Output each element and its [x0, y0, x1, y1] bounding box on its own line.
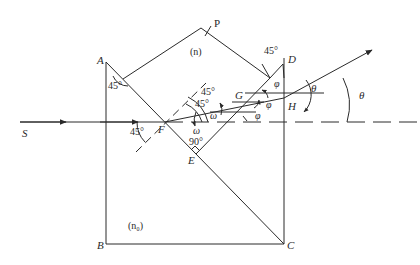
omega-1: ω	[193, 126, 200, 136]
label-D: D	[288, 54, 296, 65]
theta-2: θ	[359, 90, 364, 101]
label-S: S	[22, 128, 28, 139]
label-B: B	[97, 240, 104, 251]
angle-F-label: 45°	[130, 127, 144, 137]
label-A: A	[97, 55, 104, 66]
diagram-lines	[0, 0, 420, 265]
omega-2: ω	[210, 111, 217, 121]
optics-diagram: A B C D E F G H P S (n) (n₀) 45° 45° 90°…	[0, 0, 420, 265]
angle-E-label: 90°	[189, 137, 203, 147]
hypotenuse-AC	[106, 62, 284, 244]
label-C: C	[287, 240, 294, 251]
label-P: P	[214, 18, 220, 29]
theta-1: θ	[311, 83, 316, 94]
label-block-medium: (n₀)	[128, 221, 143, 231]
phi-1: φ	[274, 79, 280, 89]
label-F: F	[158, 124, 165, 135]
label-prism-medium: (n)	[190, 47, 202, 57]
label-E: E	[188, 155, 195, 166]
label-G: G	[235, 90, 243, 101]
phi-3: φ	[255, 111, 261, 121]
label-H: H	[288, 101, 296, 112]
angle-A-label: 45°	[108, 81, 122, 91]
angle-45-outer: 45°	[201, 87, 215, 97]
angle-45-top: 45°	[264, 46, 278, 56]
phi-2: φ	[266, 100, 272, 110]
angle-45-inner: 45°	[195, 99, 209, 109]
